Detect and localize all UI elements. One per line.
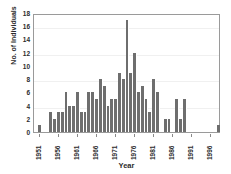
y-tick-label: 4: [14, 103, 30, 111]
y-tick-label: 18: [14, 10, 30, 18]
bar: [217, 125, 221, 132]
y-tick-label: 10: [14, 63, 30, 71]
x-tick-label: 1986: [168, 146, 175, 160]
x-tick-mark: [191, 134, 192, 137]
bar-series: [34, 15, 219, 132]
bar-chart-figure: No. of Individuals 024681012141618 19511…: [0, 0, 231, 174]
y-axis-tick-labels: 024681012141618: [14, 10, 30, 137]
x-tick-mark: [58, 134, 59, 137]
bar: [183, 99, 187, 132]
plot-area: [33, 14, 220, 133]
y-tick-label: 14: [14, 36, 30, 44]
x-tick-label: 1961: [73, 146, 80, 160]
x-tick-mark: [115, 134, 116, 137]
x-tick-mark: [153, 134, 154, 137]
x-tick-mark: [77, 134, 78, 137]
y-tick-label: 6: [14, 89, 30, 97]
x-tick-mark: [210, 134, 211, 137]
bar: [156, 92, 160, 132]
bar: [38, 125, 42, 132]
x-tick-label: 1956: [54, 146, 61, 160]
y-tick-label: 2: [14, 116, 30, 124]
x-tick-label: 1976: [130, 146, 137, 160]
x-axis-title: Year: [33, 161, 220, 170]
x-tick-mark: [172, 134, 173, 137]
bar: [168, 119, 172, 132]
x-axis-tick-labels: 1951195619611966197119761981198619911996: [33, 134, 220, 160]
y-tick-label: 8: [14, 76, 30, 84]
x-tick-label: 1981: [149, 146, 156, 160]
x-tick-label: 1996: [206, 146, 213, 160]
y-tick-label: 16: [14, 23, 30, 31]
x-tick-label: 1991: [187, 146, 194, 160]
x-tick-mark: [96, 134, 97, 137]
y-tick-label: 0: [14, 129, 30, 137]
x-tick-mark: [134, 134, 135, 137]
x-tick-mark: [39, 134, 40, 137]
x-tick-label: 1971: [111, 146, 118, 160]
y-tick-label: 12: [14, 50, 30, 58]
x-tick-label: 1966: [92, 146, 99, 160]
x-tick-label: 1951: [35, 146, 42, 160]
